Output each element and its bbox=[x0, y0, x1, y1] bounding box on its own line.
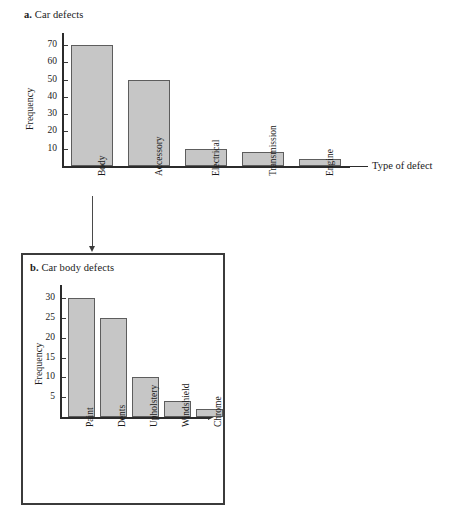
x-category-label: Paint bbox=[85, 407, 95, 427]
x-category-label: Upholstery bbox=[149, 385, 159, 427]
panel-b-car-body-defects: b. Car body defects Frequency 5101520253… bbox=[0, 0, 468, 525]
panel-b-label: b. bbox=[30, 262, 39, 273]
y-tick-label: 30 bbox=[31, 292, 55, 302]
y-tick-mark bbox=[62, 298, 66, 299]
y-tick-label: 25 bbox=[31, 312, 55, 322]
y-tick-label: 10 bbox=[31, 371, 55, 381]
y-tick-mark bbox=[62, 318, 66, 319]
y-tick-mark bbox=[62, 377, 66, 378]
x-category-label: Dents bbox=[117, 405, 127, 427]
panel-b-title: b. Car body defects bbox=[30, 262, 114, 273]
y-tick-mark bbox=[62, 338, 66, 339]
y-tick-mark bbox=[62, 397, 66, 398]
bar bbox=[100, 318, 127, 417]
panel-b-title-text: Car body defects bbox=[41, 262, 114, 273]
y-tick-label: 5 bbox=[31, 391, 55, 401]
bar bbox=[68, 298, 95, 417]
y-tick-label: 15 bbox=[31, 352, 55, 362]
y-tick-mark bbox=[62, 358, 66, 359]
y-tick-label: 20 bbox=[31, 332, 55, 342]
x-category-label: Windshield bbox=[181, 384, 191, 427]
x-category-label: Chrome bbox=[213, 396, 223, 427]
pareto-chart-figure: a. Car defects Frequency 10203040506070 … bbox=[0, 0, 468, 525]
